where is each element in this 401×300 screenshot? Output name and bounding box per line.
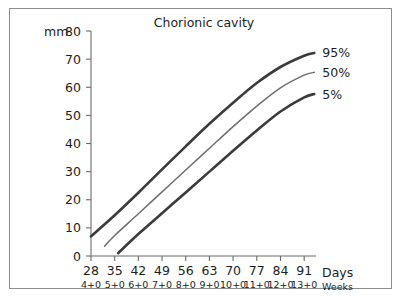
- chart-title: Chorionic cavity: [154, 15, 255, 30]
- x-week-label-7+0: 7+0: [152, 279, 172, 290]
- x-tick-label-63: 63: [201, 263, 217, 278]
- y-tick-label-60: 60: [65, 80, 81, 95]
- y-axis-ticks: [86, 31, 91, 256]
- x-week-label-4+0: 4+0: [81, 279, 101, 290]
- x-axis-week-labels: 4+05+06+07+08+09+010+011+012+013+0: [81, 279, 317, 290]
- y-tick-label-10: 10: [65, 220, 81, 235]
- x-axis-ticks: [91, 256, 304, 261]
- legend-label-50pct: 50%: [322, 65, 350, 80]
- x-week-label-9+0: 9+0: [199, 279, 219, 290]
- y-axis-unit-label: mm: [44, 24, 68, 39]
- x-week-label-6+0: 6+0: [128, 279, 148, 290]
- legend-label-95pct: 95%: [322, 45, 350, 60]
- x-week-label-8+0: 8+0: [176, 279, 196, 290]
- x-tick-label-35: 35: [107, 263, 123, 278]
- curve-50pct: [105, 72, 315, 246]
- chorionic-cavity-chart: 01020304050607080 28354249566370778491 4…: [0, 0, 401, 300]
- x-week-label-5+0: 5+0: [105, 279, 125, 290]
- x-tick-label-56: 56: [178, 263, 194, 278]
- y-tick-label-0: 0: [73, 249, 81, 264]
- y-tick-label-20: 20: [65, 192, 81, 207]
- x-week-label-10+0: 10+0: [220, 279, 246, 290]
- x-tick-label-70: 70: [225, 263, 241, 278]
- x-tick-label-28: 28: [83, 263, 99, 278]
- x-tick-label-91: 91: [296, 263, 312, 278]
- x-tick-label-42: 42: [130, 263, 146, 278]
- x-week-label-11+0: 11+0: [244, 279, 270, 290]
- y-axis-tick-labels: 01020304050607080: [65, 24, 81, 264]
- y-tick-label-40: 40: [65, 136, 81, 151]
- x-week-label-13+0: 13+0: [291, 279, 317, 290]
- x-tick-label-84: 84: [273, 263, 289, 278]
- x-axis-tick-labels: 28354249566370778491: [83, 263, 312, 278]
- x-week-label-12+0: 12+0: [267, 279, 293, 290]
- x-tick-label-77: 77: [249, 263, 265, 278]
- y-tick-label-70: 70: [65, 52, 81, 67]
- x-axis-days-label: Days: [322, 265, 353, 280]
- chart-figure: 01020304050607080 28354249566370778491 4…: [0, 0, 401, 300]
- x-tick-label-49: 49: [154, 263, 170, 278]
- data-curves: [91, 53, 314, 253]
- curve-95pct: [91, 53, 314, 236]
- x-axis-weeks-label: Weeks: [322, 281, 353, 292]
- legend-label-5pct: 5%: [322, 87, 342, 102]
- chart-legend: 95%50%5%: [322, 45, 350, 101]
- y-tick-label-30: 30: [65, 164, 81, 179]
- y-tick-label-50: 50: [65, 108, 81, 123]
